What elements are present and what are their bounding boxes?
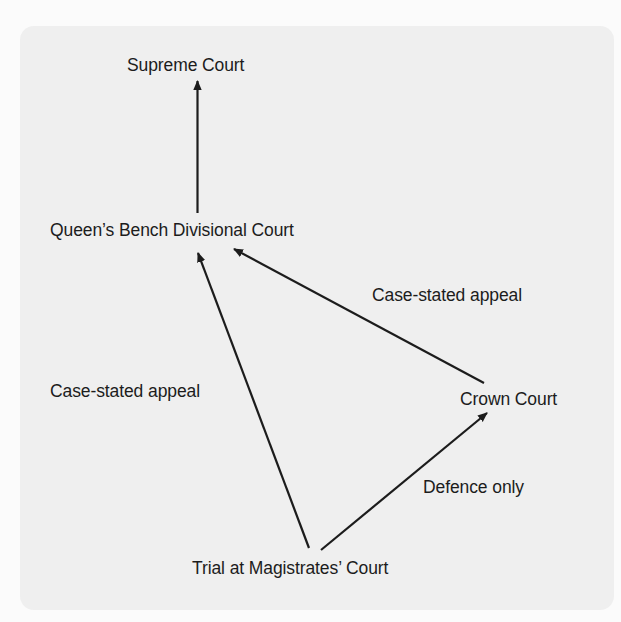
edge-label-defence-only: Defence only [423, 479, 524, 497]
node-queens-bench-divisional-court: Queen’s Bench Divisional Court [50, 222, 294, 240]
node-supreme-court: Supreme Court [127, 57, 244, 75]
node-magistrates-court: Trial at Magistrates’ Court [192, 560, 388, 578]
node-crown-court: Crown Court [460, 391, 557, 409]
edge-crown-to-qbd [234, 249, 484, 383]
edge-label-magistrates-case-stated: Case-stated appeal [50, 383, 200, 401]
diagram-edges [0, 0, 621, 622]
edge-label-crown-case-stated: Case-stated appeal [372, 287, 522, 305]
edge-magistrates-to-qbd [198, 253, 309, 548]
